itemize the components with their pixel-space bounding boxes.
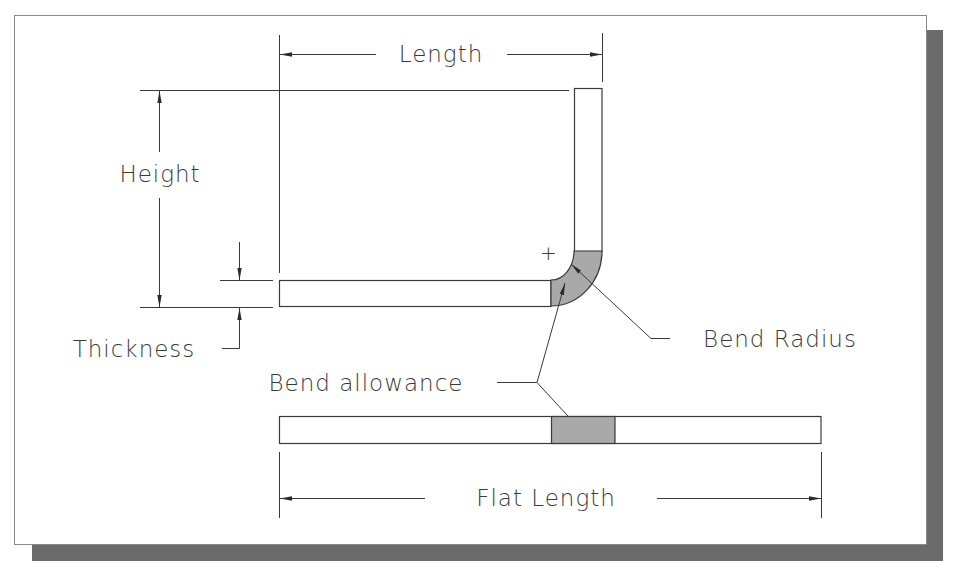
- sheet-metal-bend-diagram: + Length Height Thickness Bend Radius Be…: [0, 0, 957, 561]
- length-label: Length: [399, 41, 484, 67]
- horizontal-flange: [280, 281, 552, 307]
- bend-allowance-label: Bend allowance: [269, 370, 464, 396]
- thickness-label: Thickness: [73, 336, 196, 362]
- flat-bend-allowance-region: [552, 417, 616, 444]
- height-label: Height: [119, 161, 200, 187]
- flat-bar: [280, 417, 822, 444]
- bend-center-mark: +: [540, 241, 558, 265]
- flat-pattern: [280, 417, 822, 444]
- vertical-flange: [575, 89, 603, 252]
- flat-length-label: Flat Length: [476, 485, 616, 511]
- bend-radius-label: Bend Radius: [703, 326, 857, 352]
